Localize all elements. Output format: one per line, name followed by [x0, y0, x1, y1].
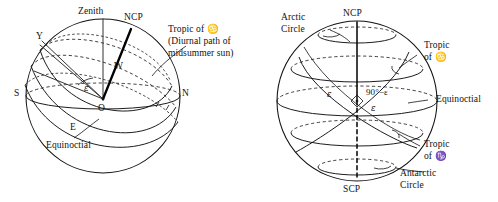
left-equinoctial-label: Equinoctial — [46, 140, 91, 151]
left-point-e-label: E — [70, 122, 76, 133]
right-tropic-capricorn-leader-line — [399, 134, 420, 146]
right-origin-point-marker — [356, 100, 359, 103]
left-lower-diurnal-front-arc — [25, 85, 178, 147]
left-tropic-caption-line1: (Diurnal path of — [168, 36, 231, 47]
left-horizon-tick-a — [166, 105, 169, 110]
left-ncp-label: NCP — [124, 12, 143, 23]
right-arctic-circle-line2: Circle — [281, 24, 305, 35]
right-tropic-capricorn-line2: of ♑ — [424, 151, 447, 162]
right-arctic-arc-marker — [323, 34, 340, 37]
right-tropic-cancer-line2: of ♋ — [424, 52, 447, 63]
right-antarctic-circle-line2: Circle — [400, 180, 424, 191]
right-ninety-minus-epsilon-label: 90°−ε — [366, 87, 388, 97]
left-point-s-label: S — [14, 88, 19, 99]
left-upper-dashed-arc — [46, 34, 170, 80]
left-origin-point-marker — [102, 98, 105, 101]
right-antarctic-arc-marker — [374, 166, 391, 169]
right-antarctic-circle-line1: Antarctic — [400, 168, 436, 179]
right-ecliptic-secondary-arc — [304, 47, 420, 140]
right-scp-label: SCP — [343, 184, 360, 195]
right-tropic-capricorn-line1: Tropic — [424, 139, 450, 150]
right-tropic-cancer-arc-marker — [392, 66, 399, 74]
right-epsilon-left-label: ε — [327, 90, 332, 100]
right-sphere-group — [277, 21, 437, 181]
left-ray-to-west-horizon — [34, 71, 103, 99]
left-point-y-label: Y — [36, 31, 43, 42]
right-tropic-cancer-leader-line — [399, 55, 417, 68]
left-tropic-of-cancer-label: Tropic of ♋ — [168, 24, 219, 35]
right-tropic-cancer-line1: Tropic — [424, 40, 450, 51]
right-arctic-circle-line1: Arctic — [281, 12, 305, 23]
right-equinoctial-leader-line — [408, 100, 428, 103]
left-equinoctial-leader-line — [74, 119, 99, 138]
left-tropic-caption-line2: midsummer sun) — [168, 48, 234, 59]
left-epsilon-angle-label: ε — [84, 84, 89, 94]
left-tropic-cancer-front-arc — [40, 50, 172, 111]
right-epsilon-lower-label: ε — [371, 104, 376, 114]
left-zenith-label: Zenith — [78, 6, 103, 17]
left-point-o-label: O — [98, 103, 105, 114]
left-ray-to-y-secondary — [40, 45, 103, 99]
right-arctic-leader-line — [330, 30, 350, 42]
right-ncp-label: NCP — [343, 8, 362, 19]
left-point-w-label: W — [114, 61, 123, 72]
right-equinoctial-label: Equinoctial — [436, 94, 481, 105]
left-ray-to-y — [42, 41, 103, 99]
astronomy-figure: Zenith NCP Tropic of ♋ (Diurnal path of … — [0, 0, 498, 202]
left-point-n-label: N — [182, 88, 189, 99]
